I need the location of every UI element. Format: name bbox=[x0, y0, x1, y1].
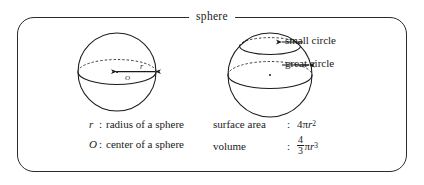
volume-fraction: 4 3 bbox=[297, 135, 304, 156]
callout-label-small-circle: small circle bbox=[285, 34, 336, 47]
formula-label-volume: volume bbox=[213, 140, 287, 152]
definition-text-radius: radius of a sphere bbox=[106, 118, 184, 130]
definition-symbol-o: O bbox=[89, 138, 99, 150]
volume-denominator: 3 bbox=[297, 146, 304, 156]
formula-expression-volume: 4 3 πr3 bbox=[297, 135, 318, 156]
great-circle-front bbox=[228, 75, 312, 89]
left-equator-front bbox=[78, 72, 156, 85]
center-label: O bbox=[125, 74, 130, 82]
diagram-canvas bbox=[17, 17, 407, 172]
definition-symbol-r: r bbox=[89, 118, 99, 130]
definition-row-radius: r : radius of a sphere bbox=[89, 118, 184, 130]
formula-colon-volume: : bbox=[287, 140, 297, 152]
left-sphere-diagram bbox=[78, 33, 156, 111]
radius-label: r bbox=[140, 63, 143, 71]
formula-colon-surface-area: : bbox=[287, 118, 297, 130]
formula-row-surface-area: surface area : 4πr2 bbox=[213, 118, 316, 130]
right-center-point bbox=[269, 74, 271, 76]
formula-row-volume: volume : 4 3 πr3 bbox=[213, 135, 318, 156]
figure-frame: sphere bbox=[17, 17, 407, 172]
volume-numerator: 4 bbox=[297, 135, 304, 145]
small-circle-front bbox=[240, 46, 301, 54]
definition-colon-o: : bbox=[99, 138, 102, 150]
formula-label-surface-area: surface area bbox=[213, 118, 287, 130]
definition-colon-r: : bbox=[99, 118, 102, 130]
left-equator-back bbox=[78, 60, 156, 73]
callout-label-great-circle: great circle bbox=[285, 57, 334, 70]
formula-expression-surface-area: 4πr2 bbox=[297, 118, 316, 130]
definition-row-center: O : center of a sphere bbox=[89, 138, 184, 150]
definition-text-center: center of a sphere bbox=[106, 138, 184, 150]
